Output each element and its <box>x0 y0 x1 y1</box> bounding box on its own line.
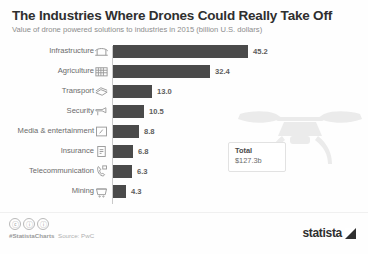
bar-category-label: Media & entertainment <box>18 126 94 135</box>
cargo-icon <box>94 84 109 99</box>
bar-row: Agriculture 32.4 <box>0 64 368 79</box>
bar-row: Insurance 6.8 <box>0 144 368 159</box>
bar-value-label: 45.2 <box>253 47 268 56</box>
bar-value-label: 4.3 <box>131 187 142 196</box>
brand-wordmark: statista <box>302 226 342 240</box>
bar-fill <box>113 165 132 178</box>
bar-fill <box>113 145 133 158</box>
field-icon <box>94 64 109 79</box>
bar-fill <box>113 105 144 118</box>
bar-category-label: Agriculture <box>58 66 94 75</box>
by-icon: ⓘ <box>23 218 35 230</box>
bar-row: Media & entertainment 8.8 <box>0 124 368 139</box>
bar-fill <box>113 85 152 98</box>
bar-fill <box>113 125 139 138</box>
bar-fill <box>113 65 210 78</box>
nd-icon: ⓘ <box>37 218 49 230</box>
bar-chart-plot: Infrastructure 45.2 Agriculture 32.4 Tra… <box>0 44 368 208</box>
statista-mark-icon <box>345 228 356 239</box>
bar-category-label: Security <box>67 106 94 115</box>
bar-value-label: 8.8 <box>144 127 155 136</box>
total-value: $127.3b <box>235 156 285 166</box>
bar-category-label: Infrastructure <box>49 46 94 55</box>
camera-icon <box>94 104 109 119</box>
bar-category-label: Mining <box>72 186 94 195</box>
statista-logo: statista <box>302 226 356 240</box>
bar-category-label: Insurance <box>61 146 94 155</box>
bar-value-label: 10.5 <box>149 107 164 116</box>
chart-canvas: The Industries Where Drones Could Really… <box>0 0 368 254</box>
bar-row: Telecommunication 6.3 <box>0 164 368 179</box>
bar-row: Mining 4.3 <box>0 184 368 199</box>
mining-cart-icon <box>94 184 109 199</box>
document-icon <box>94 144 109 159</box>
page-title: The Industries Where Drones Could Really… <box>12 8 332 23</box>
source-label: Source: PwC <box>58 232 94 239</box>
bar-value-label: 32.4 <box>215 67 230 76</box>
creative-commons-badges: ⓒ ⓘ ⓘ <box>9 218 49 230</box>
chart-subtitle: Value of drone powered solutions to indu… <box>12 25 262 34</box>
media-icon <box>94 124 109 139</box>
bar-category-label: Telecommunication <box>29 166 94 175</box>
phone-icon <box>94 164 109 179</box>
bar-row: Infrastructure 45.2 <box>0 44 368 59</box>
bar-row: Security 10.5 <box>0 104 368 119</box>
total-label: Total <box>235 146 285 156</box>
total-annotation: Total $127.3b <box>228 142 286 172</box>
bar-category-label: Transport <box>62 86 94 95</box>
bar-fill <box>113 45 248 58</box>
bar-value-label: 6.3 <box>137 167 148 176</box>
bar-value-label: 6.8 <box>138 147 149 156</box>
bar-row: Transport 13.0 <box>0 84 368 99</box>
bridge-icon <box>94 44 109 59</box>
statista-hashtag: #StatistaCharts <box>9 232 54 239</box>
bar-fill <box>113 185 126 198</box>
bar-value-label: 13.0 <box>157 87 172 96</box>
footer-divider <box>0 212 368 213</box>
cc-icon: ⓒ <box>9 218 21 230</box>
